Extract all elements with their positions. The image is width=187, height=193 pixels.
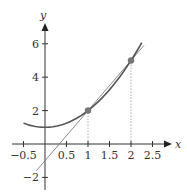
y-tick-label: 2	[32, 105, 39, 118]
x-tick-label: 1	[85, 149, 92, 162]
x-tick-label: 0.5	[58, 149, 76, 162]
chart: x y −0.50.511.522.5−2246	[0, 0, 187, 193]
data-point	[128, 58, 134, 64]
y-axis-label: y	[39, 9, 47, 22]
curve-line	[24, 43, 142, 128]
x-tick-label: −0.5	[10, 149, 37, 162]
x-axis-arrow-icon	[164, 141, 172, 148]
y-tick-label: 4	[32, 71, 39, 84]
data-point	[85, 108, 91, 114]
x-tick-label: 1.5	[101, 149, 119, 162]
y-tick-label: 6	[32, 38, 39, 51]
x-tick-label: 2	[128, 149, 135, 162]
y-axis-arrow-icon	[42, 23, 49, 31]
y-tick-label: −2	[23, 171, 39, 184]
dotted-guides	[88, 61, 131, 145]
x-tick-label: 2.5	[144, 149, 162, 162]
x-axis-label: x	[175, 138, 182, 151]
